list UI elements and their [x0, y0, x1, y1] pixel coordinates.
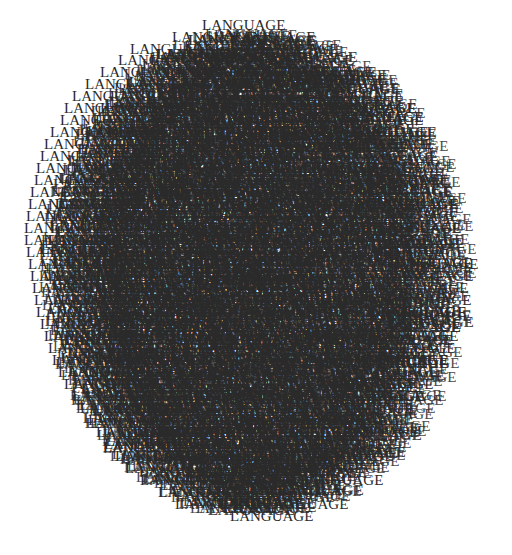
word-cloud-canvas: LANGUAGELANGUAGELANGUAGELANGUAGELANGUAGE… — [0, 0, 512, 555]
word-language: LANGUAGE — [208, 503, 295, 518]
